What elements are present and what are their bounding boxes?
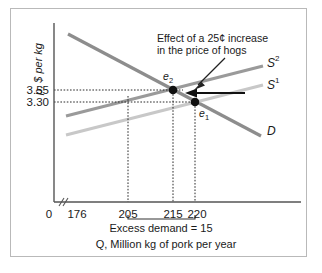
effect-annotation-line2: in the price of hogs bbox=[157, 44, 247, 56]
e2-label-subscript: 2 bbox=[169, 76, 173, 85]
equilibrium-point-e2 bbox=[169, 86, 178, 95]
callout-pointer-arrow bbox=[194, 58, 225, 90]
y-axis-title: p, $ per kg bbox=[32, 42, 44, 96]
supply2-label: S bbox=[267, 56, 275, 70]
supply2-label-superscript: 2 bbox=[275, 54, 280, 63]
figure-root: 3.55 3.30 0 176 205 215 220 p, $ per kg … bbox=[0, 0, 322, 273]
excess-demand-bracket bbox=[128, 215, 195, 219]
supply2-label-group: S 2 bbox=[267, 54, 280, 70]
x-tick-label-205: 205 bbox=[118, 208, 137, 220]
excess-demand-label: Excess demand = 15 bbox=[109, 222, 212, 234]
y-tick-label-330: 3.30 bbox=[27, 96, 49, 108]
x-tick-label-215: 215 bbox=[163, 208, 182, 220]
effect-annotation-line1: Effect of a 25¢ increase bbox=[157, 32, 268, 44]
e2-label-group: e 2 bbox=[163, 70, 173, 85]
demand-label: D bbox=[267, 124, 276, 138]
figure-frame: 3.55 3.30 0 176 205 215 220 p, $ per kg … bbox=[10, 8, 307, 257]
supply-demand-chart: 3.55 3.30 0 176 205 215 220 p, $ per kg … bbox=[11, 9, 306, 256]
supply1-label: S bbox=[267, 78, 275, 92]
x-axis-title: Q, Million kg of pork per year bbox=[96, 238, 237, 250]
e1-label-subscript: 1 bbox=[205, 113, 209, 122]
supply1-label-superscript: 1 bbox=[275, 76, 280, 85]
x-tick-label-176: 176 bbox=[67, 208, 86, 220]
x-tick-label-0: 0 bbox=[46, 208, 52, 220]
supply1-label-group: S 1 bbox=[267, 76, 280, 92]
x-tick-label-220: 220 bbox=[187, 208, 206, 220]
equilibrium-point-e1 bbox=[191, 98, 200, 107]
